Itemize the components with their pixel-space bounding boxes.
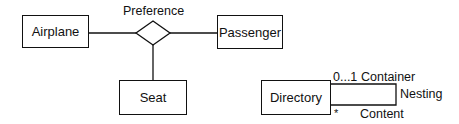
entity-label: Seat [140,90,167,105]
relationship-diamond [136,21,170,45]
entity-label: Airplane [32,24,80,39]
role-content: Content [360,108,404,121]
entity-seat: Seat [119,80,187,115]
entity-label: Passenger [219,25,281,40]
role-container: Container [361,71,415,84]
entity-airplane: Airplane [22,15,89,48]
multiplicity-container: 0...1 [333,71,357,84]
relationship-label: Preference [123,5,184,18]
multiplicity-content: * [334,108,338,119]
entity-passenger: Passenger [217,15,283,49]
class-label: Directory [270,90,322,105]
association-name-nesting: Nesting [400,88,442,101]
class-directory: Directory [261,80,331,115]
nesting-association-line [331,84,396,105]
